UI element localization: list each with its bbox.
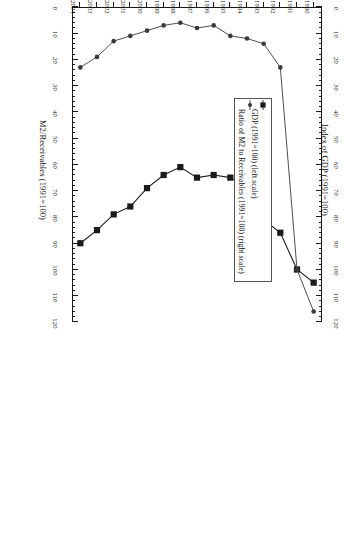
right-tick-label: 100 bbox=[52, 263, 59, 279]
data-point bbox=[211, 23, 216, 28]
data-point bbox=[77, 240, 83, 246]
right-tick-label: 90 bbox=[52, 237, 59, 253]
left-tick-label: 30 bbox=[333, 79, 340, 95]
left-tick-label: 100 bbox=[333, 263, 340, 279]
legend-marker bbox=[248, 103, 252, 107]
legend-box: GDP (1991=100) (left scale) Ratio of M2 … bbox=[234, 98, 272, 282]
right-tick-label: 70 bbox=[52, 184, 59, 200]
right-tick-label: 110 bbox=[52, 289, 59, 305]
right-tick-label: 120 bbox=[52, 316, 59, 332]
left-tick-label: 20 bbox=[333, 53, 340, 69]
legend-marker bbox=[260, 102, 265, 107]
data-point bbox=[128, 34, 133, 39]
right-tick-label: 10 bbox=[52, 27, 59, 43]
data-point bbox=[178, 20, 183, 25]
data-point bbox=[78, 65, 83, 70]
data-point bbox=[145, 28, 150, 33]
right-tick-label: 60 bbox=[52, 158, 59, 174]
data-point bbox=[161, 23, 166, 28]
data-point bbox=[211, 172, 217, 178]
left-tick-label: 120 bbox=[333, 316, 340, 332]
left-tick-label: 50 bbox=[333, 132, 340, 148]
data-point bbox=[311, 280, 317, 286]
right-axis-title: M2/Receivables (1991=100) bbox=[38, 80, 48, 260]
data-point bbox=[245, 36, 250, 41]
left-tick-label: 10 bbox=[333, 27, 340, 43]
left-tick-label: 80 bbox=[333, 211, 340, 227]
left-axis-title: Index of GDP (1991=100) bbox=[320, 80, 330, 260]
left-tick-label: 60 bbox=[333, 158, 340, 174]
series-line-gdp bbox=[80, 167, 313, 283]
data-point bbox=[161, 172, 167, 178]
left-tick-label: 70 bbox=[333, 184, 340, 200]
data-point bbox=[195, 26, 200, 31]
plot-area: 0102030405060708090100110120 01020304050… bbox=[72, 7, 322, 322]
right-tick-label: 50 bbox=[52, 132, 59, 148]
data-point bbox=[278, 65, 283, 70]
data-point bbox=[228, 34, 233, 39]
data-point bbox=[261, 41, 266, 46]
data-point bbox=[277, 230, 283, 236]
data-point bbox=[295, 267, 300, 272]
right-tick-label: 20 bbox=[52, 53, 59, 69]
data-point bbox=[311, 309, 316, 314]
right-tick-label: 40 bbox=[52, 106, 59, 122]
left-tick-label: 0 bbox=[333, 1, 340, 17]
right-tick-label: 0 bbox=[52, 1, 59, 17]
data-point bbox=[127, 203, 133, 209]
data-point bbox=[144, 185, 150, 191]
series-lines bbox=[72, 7, 322, 322]
chart-canvas: 0102030405060708090100110120 01020304050… bbox=[0, 0, 353, 535]
data-point bbox=[227, 175, 233, 181]
chart-page: 0102030405060708090100110120 01020304050… bbox=[0, 0, 353, 535]
left-tick-label: 110 bbox=[333, 289, 340, 305]
legend-symbols bbox=[235, 99, 271, 281]
right-tick-label: 80 bbox=[52, 211, 59, 227]
data-point bbox=[111, 39, 116, 44]
data-point bbox=[95, 55, 100, 60]
data-point bbox=[194, 175, 200, 181]
data-point bbox=[177, 164, 183, 170]
left-tick-label: 90 bbox=[333, 237, 340, 253]
right-tick-label: 30 bbox=[52, 79, 59, 95]
left-tick-label: 40 bbox=[333, 106, 340, 122]
data-point bbox=[111, 211, 117, 217]
data-point bbox=[94, 227, 100, 233]
